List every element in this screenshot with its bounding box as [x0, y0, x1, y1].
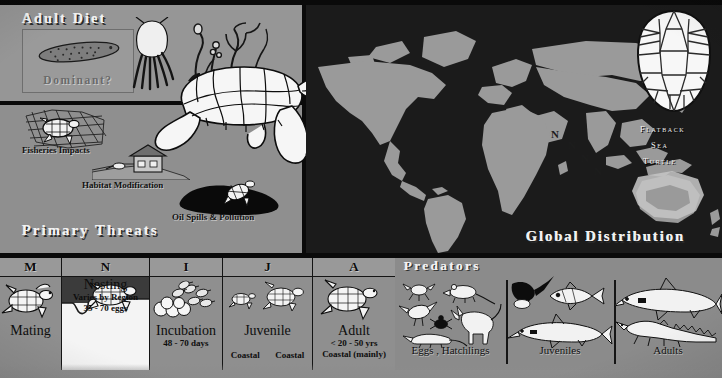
juvenile-predator-icons	[506, 276, 614, 348]
species-label-line-1: Flatback	[640, 124, 685, 134]
incubation-sub-1: 48 - 70 days	[150, 338, 222, 349]
nesting-sub-2: 35 - 70 eggs	[62, 303, 149, 314]
life-stage-juvenile[interactable]: J	[223, 258, 313, 370]
stage-name-juvenile: Juvenile	[223, 323, 312, 338]
species-label-line-2: Sea	[651, 140, 669, 150]
egg-predator-icons	[397, 276, 508, 348]
global-distribution-title: Global Distribution	[526, 228, 685, 245]
stage-name-adult: Adult	[313, 323, 395, 338]
juvenile-turtles-icon	[223, 277, 313, 323]
life-stage-incubation[interactable]: I	[150, 258, 223, 370]
predator-group-juveniles[interactable]: Juveniles	[506, 276, 614, 370]
adult-sub-1: < 20 - 50 yrs	[313, 338, 395, 349]
stage-code-m: M	[0, 258, 61, 277]
primary-threats-title: Primary Threats	[22, 222, 159, 239]
nesting-marker-n-2: N	[568, 139, 576, 151]
stage-name-incubation: Incubation	[150, 323, 222, 338]
oil-spills-pollution-label: Oil Spills & Pollution	[172, 212, 254, 222]
predator-group-adults[interactable]: Adults	[614, 276, 722, 370]
life-stage-adult[interactable]: A	[313, 258, 395, 370]
predator-group-eggs-hatchlings[interactable]: Eggs , Hatchlings	[395, 276, 506, 370]
fisheries-impacts-label: Fisheries Impacts	[22, 145, 90, 155]
predator-label-adults: Adults	[614, 344, 722, 356]
dominant-label: Dominant?	[23, 74, 133, 86]
predators-panel: Predators	[395, 258, 722, 370]
flatback-sea-turtle-poster: Dominant?	[0, 0, 722, 378]
oil-slick-icon	[172, 176, 284, 216]
nesting-marker-n-1: N	[551, 128, 559, 140]
species-label-line-3: Turtle	[643, 156, 677, 166]
stage-code-j: J	[223, 258, 312, 277]
juvenile-habitat-1: Coastal	[231, 350, 260, 360]
life-cycle-table: M	[0, 258, 395, 370]
adult-turtle-icon	[313, 277, 395, 323]
stage-code-a: A	[313, 258, 395, 277]
predators-title: Predators	[404, 258, 481, 274]
stage-name-nesting: Nesting	[62, 277, 149, 292]
life-stage-mating[interactable]: M	[0, 258, 62, 370]
nesting-marker-n-4: N	[594, 165, 602, 177]
nesting-marker-n-3: N	[581, 152, 589, 164]
habitat-modification-label: Habitat Modification	[82, 180, 163, 190]
juvenile-habitat-2: Coastal	[275, 350, 304, 360]
dominant-prey-box: Dominant?	[22, 29, 134, 93]
predator-label-eggs-hatchlings: Eggs , Hatchlings	[395, 344, 506, 356]
stage-code-i: I	[150, 258, 222, 277]
predator-label-juveniles: Juveniles	[506, 344, 614, 356]
adult-sub-2: Coastal (mainly)	[313, 349, 395, 360]
eggs-hatchlings-icon	[150, 277, 223, 323]
adult-predator-icons	[614, 276, 722, 348]
stage-code-n: N	[62, 258, 149, 277]
turtle-mating-icon	[0, 277, 62, 323]
adult-diet-title: Adult Diet	[22, 11, 107, 27]
nesting-sub-1: Varies by Region	[62, 292, 149, 303]
stage-name-mating: Mating	[0, 323, 61, 338]
sea-cucumber-icon	[23, 32, 133, 78]
life-stage-nesting[interactable]: N Nesting	[62, 258, 150, 370]
turtle-carapace-top-view-icon	[630, 7, 718, 115]
